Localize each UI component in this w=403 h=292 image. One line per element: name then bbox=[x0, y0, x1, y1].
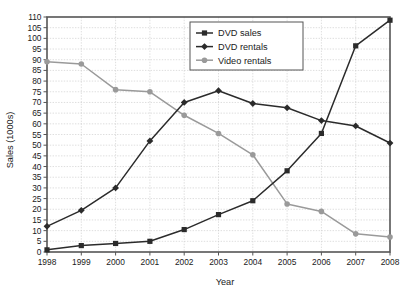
data-point-marker bbox=[44, 59, 50, 65]
data-point-marker bbox=[202, 30, 207, 35]
y-tick-label: 85 bbox=[32, 65, 42, 75]
data-point-marker bbox=[113, 241, 118, 246]
y-tick-label: 40 bbox=[32, 162, 42, 172]
data-point-marker bbox=[79, 61, 85, 67]
x-tick-label: 2002 bbox=[175, 257, 194, 267]
data-point-marker bbox=[216, 131, 222, 137]
y-tick-label: 105 bbox=[28, 23, 42, 33]
legend-label: DVD sales bbox=[218, 28, 262, 38]
data-point-marker bbox=[250, 152, 256, 158]
y-tick-label: 80 bbox=[32, 76, 42, 86]
sales-line-chart: 0510152025303540455055606570758085909510… bbox=[0, 0, 403, 292]
y-tick-label: 65 bbox=[32, 108, 42, 118]
data-point-marker bbox=[113, 87, 119, 93]
y-tick-label: 0 bbox=[37, 247, 42, 257]
y-tick-label: 95 bbox=[32, 44, 42, 54]
y-tick-label: 90 bbox=[32, 55, 42, 65]
data-point-marker bbox=[250, 198, 255, 203]
x-tick-label: 2006 bbox=[312, 257, 331, 267]
data-point-marker bbox=[319, 131, 324, 136]
data-point-marker bbox=[387, 18, 392, 23]
y-tick-label: 60 bbox=[32, 119, 42, 129]
y-axis-title: Sales (1000s) bbox=[5, 112, 15, 169]
y-tick-label: 70 bbox=[32, 97, 42, 107]
y-tick-label: 75 bbox=[32, 87, 42, 97]
chart-legend: DVD salesDVD rentalsVideo rentals bbox=[190, 22, 303, 70]
chart-container: 0510152025303540455055606570758085909510… bbox=[0, 0, 403, 292]
data-point-marker bbox=[353, 43, 358, 48]
legend-label: Video rentals bbox=[218, 56, 272, 66]
y-tick-label: 15 bbox=[32, 215, 42, 225]
data-point-marker bbox=[319, 209, 325, 215]
y-tick-label: 55 bbox=[32, 130, 42, 140]
data-point-marker bbox=[353, 231, 359, 237]
y-tick-label: 110 bbox=[28, 12, 42, 22]
data-point-marker bbox=[216, 212, 221, 217]
x-tick-label: 2007 bbox=[346, 257, 365, 267]
data-point-marker bbox=[181, 112, 187, 118]
data-point-marker bbox=[79, 243, 84, 248]
data-point-marker bbox=[147, 239, 152, 244]
data-point-marker bbox=[44, 247, 49, 252]
x-axis-title: Year bbox=[216, 277, 235, 287]
y-tick-label: 10 bbox=[32, 226, 42, 236]
y-tick-label: 25 bbox=[32, 194, 42, 204]
x-tick-label: 2005 bbox=[278, 257, 297, 267]
x-tick-label: 2003 bbox=[209, 257, 228, 267]
y-tick-label: 50 bbox=[32, 140, 42, 150]
x-tick-label: 2008 bbox=[381, 257, 400, 267]
y-tick-label: 30 bbox=[32, 183, 42, 193]
x-tick-label: 2004 bbox=[243, 257, 262, 267]
data-point-marker bbox=[182, 227, 187, 232]
data-point-marker bbox=[284, 201, 290, 207]
legend-label: DVD rentals bbox=[218, 42, 268, 52]
data-point-marker bbox=[285, 168, 290, 173]
y-tick-label: 45 bbox=[32, 151, 42, 161]
x-tick-label: 1999 bbox=[72, 257, 91, 267]
x-tick-label: 2000 bbox=[106, 257, 125, 267]
data-point-marker bbox=[202, 57, 208, 63]
x-tick-label: 2001 bbox=[141, 257, 160, 267]
data-point-marker bbox=[147, 89, 153, 95]
y-tick-label: 100 bbox=[28, 33, 42, 43]
y-tick-label: 20 bbox=[32, 204, 42, 214]
data-point-marker bbox=[387, 234, 393, 240]
x-tick-label: 1998 bbox=[38, 257, 57, 267]
y-tick-label: 35 bbox=[32, 172, 42, 182]
y-tick-label: 5 bbox=[37, 236, 42, 246]
